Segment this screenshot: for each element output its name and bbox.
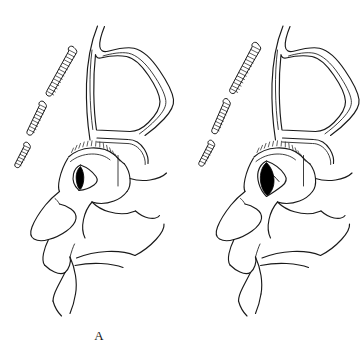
- maxillary-sinus: [282, 138, 333, 165]
- skull-outline: [86, 26, 173, 140]
- zygomatic-contour: [316, 173, 353, 181]
- nasal-turbinate: [69, 141, 125, 164]
- balloon-deflated: [73, 165, 97, 190]
- panel-b: B: [182, 0, 364, 330]
- nasal-turbinate: [254, 141, 310, 164]
- sinus-cavity: [279, 55, 345, 132]
- hard-palate: [75, 251, 135, 267]
- face-profile: [216, 192, 262, 317]
- tongue-and-oropharynx: [268, 202, 349, 256]
- tongue-and-oropharynx: [83, 202, 164, 256]
- face-profile: [31, 192, 77, 317]
- skull-outline: [272, 26, 359, 140]
- panel-a: A: [0, 0, 182, 330]
- maxillary-sinus: [97, 138, 148, 165]
- sinus-cavity: [94, 55, 160, 132]
- hard-palate: [261, 251, 321, 267]
- panel-label-a: A: [79, 328, 119, 344]
- ribbed-catheter-tube: [15, 46, 77, 167]
- nasopharynx: [59, 158, 136, 214]
- ribbed-catheter-tube: [199, 42, 261, 166]
- zygomatic-contour: [130, 173, 167, 181]
- balloon-inflated: [258, 161, 286, 197]
- figure-root: A: [0, 0, 364, 359]
